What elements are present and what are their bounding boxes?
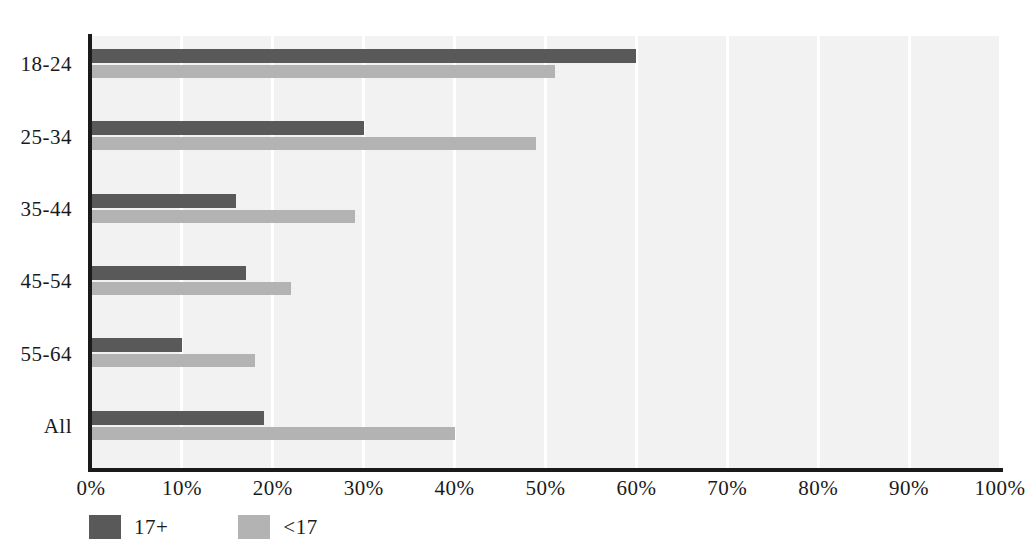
y-axis-label-35-44: 35-44	[21, 197, 73, 222]
x-axis-tick-0: 0%	[77, 476, 106, 501]
bar-55-64-17	[91, 354, 255, 367]
bar-all-17	[91, 427, 455, 440]
bar-chart: 18-2425-3435-4445-5455-64All 0%10%20%30%…	[0, 0, 1030, 547]
bar-all-17	[91, 411, 264, 425]
gridline	[908, 36, 911, 470]
legend-label: 17+	[134, 515, 168, 540]
gridline	[362, 36, 365, 470]
x-axis-tick-90: 90%	[889, 476, 929, 501]
x-axis-tick-70: 70%	[707, 476, 747, 501]
x-axis-tick-30: 30%	[344, 476, 384, 501]
legend-item-17[interactable]: 17+	[89, 515, 168, 540]
x-axis-tick-labels: 0%10%20%30%40%50%60%70%80%90%100%	[0, 476, 1030, 506]
y-axis-label-45-54: 45-54	[21, 269, 73, 294]
bar-45-54-17	[91, 266, 246, 280]
x-axis-tick-40: 40%	[435, 476, 475, 501]
bar-18-24-17	[91, 49, 636, 63]
gridline	[180, 36, 183, 470]
bar-18-24-17	[91, 65, 555, 78]
y-axis-tick-labels: 18-2425-3435-4445-5455-64All	[0, 36, 80, 470]
plot-area	[91, 36, 1000, 470]
gridline	[271, 36, 274, 470]
x-axis-tick-60: 60%	[616, 476, 656, 501]
bar-25-34-17	[91, 137, 536, 150]
gridline	[453, 36, 456, 470]
legend-item-17[interactable]: <17	[238, 515, 317, 540]
x-axis-tick-80: 80%	[798, 476, 838, 501]
legend-label: <17	[283, 515, 317, 540]
x-axis-line	[88, 468, 1003, 472]
legend-swatch-icon	[89, 515, 121, 539]
x-axis-tick-50: 50%	[526, 476, 566, 501]
bar-55-64-17	[91, 338, 182, 352]
legend-swatch-icon	[238, 515, 270, 539]
y-axis-label-all: All	[44, 414, 72, 439]
gridline	[544, 36, 547, 470]
y-axis-label-55-64: 55-64	[21, 341, 73, 366]
gridline	[817, 36, 820, 470]
bar-35-44-17	[91, 210, 355, 223]
gridline	[726, 36, 729, 470]
bar-45-54-17	[91, 282, 291, 295]
gridline	[999, 36, 1002, 470]
gridline	[635, 36, 638, 470]
y-axis-label-18-24: 18-24	[21, 52, 73, 77]
chart-legend: 17+<17	[89, 512, 360, 542]
y-axis-label-25-34: 25-34	[21, 124, 73, 149]
x-axis-tick-20: 20%	[253, 476, 293, 501]
x-axis-tick-100: 100%	[975, 476, 1026, 501]
bar-25-34-17	[91, 121, 364, 135]
bar-35-44-17	[91, 194, 236, 208]
x-axis-tick-10: 10%	[162, 476, 202, 501]
y-axis-line	[88, 34, 92, 472]
